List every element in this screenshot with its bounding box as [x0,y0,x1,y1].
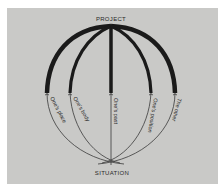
label-one-s-past: One's past [113,98,119,125]
label-one-s-position: One's position [147,98,159,133]
thick-arcs [47,26,175,93]
arc-one-s-position-thin [102,93,151,163]
branch-labels: One's place One's body One's past One's … [49,96,183,134]
label-one-s-place: One's place [49,96,68,124]
situation-label: SITUATION [95,170,129,176]
project-situation-diagram: One's place One's body One's past One's … [0,0,220,191]
arc-the-other-thin [98,93,175,164]
project-label: PROJECT [96,16,126,22]
